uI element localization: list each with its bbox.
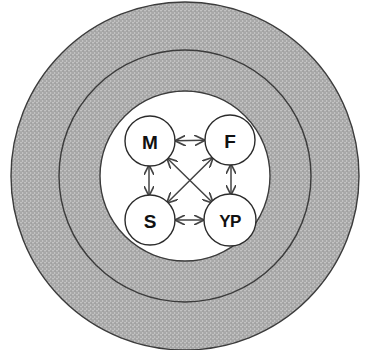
node-m-label: M	[142, 132, 158, 153]
node-yp-label: YP	[219, 212, 241, 231]
node-yp[interactable]: YP	[204, 194, 256, 246]
node-s[interactable]: S	[125, 195, 175, 245]
node-s-label: S	[144, 211, 157, 232]
concentric-systems-diagram: M F S YP	[0, 0, 369, 350]
node-f-label: F	[224, 131, 236, 152]
node-m[interactable]: M	[125, 116, 175, 166]
edge-m-f	[176, 140, 204, 141]
figure-root: M F S YP	[0, 0, 369, 350]
node-f[interactable]: F	[205, 115, 255, 165]
